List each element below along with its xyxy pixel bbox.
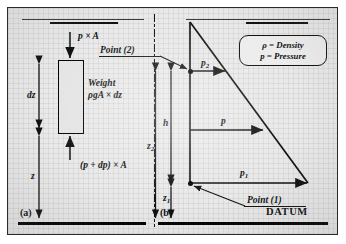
datum-label: DATUM xyxy=(266,206,308,217)
callout-point-2-rule xyxy=(99,56,161,57)
legend-line-pressure: p = Pressure xyxy=(260,51,306,61)
dimension-z1: z1 xyxy=(163,193,170,205)
legend-box: ρ = Density p = Pressure xyxy=(239,35,327,66)
label-pressure-p2: p2 xyxy=(201,58,209,70)
figure-root: p × A Weight ρgA × dz (p + dp) × A dz z … xyxy=(0,0,346,244)
dimension-h: h xyxy=(163,118,168,129)
label-pressure-p: p xyxy=(221,116,226,127)
node-point-2 xyxy=(188,69,193,74)
panel-label-b: (b) xyxy=(160,207,172,218)
legend-line-density: ρ = Density xyxy=(262,40,303,50)
callout-point-2: Point (2) xyxy=(100,45,135,55)
figure-frame: p × A Weight ρgA × dz (p + dp) × A dz z … xyxy=(7,7,338,235)
callout-point-1: Point (1) xyxy=(247,195,282,205)
node-point-1 xyxy=(188,181,193,186)
datum-line-b xyxy=(158,222,328,225)
label-pressure-p1: p1 xyxy=(240,168,248,180)
dimension-z2: z2 xyxy=(147,141,154,153)
